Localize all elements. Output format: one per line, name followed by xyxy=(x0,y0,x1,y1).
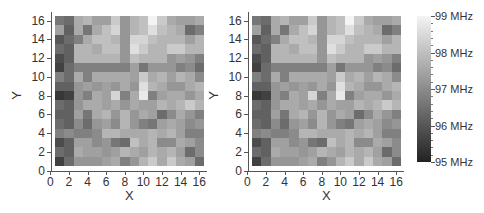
heatmap-cell xyxy=(289,54,298,63)
x-tick-label: 8 xyxy=(318,176,325,188)
heatmap-cell xyxy=(280,119,289,128)
heatmap-cell xyxy=(392,119,401,128)
heatmap-cell xyxy=(373,138,382,147)
heatmap-cell xyxy=(336,63,345,72)
heatmap-cell xyxy=(373,63,382,72)
heatmap-cell xyxy=(364,129,373,138)
heatmap-cell xyxy=(373,119,382,128)
colorbar-label: 97 MHz xyxy=(435,84,473,95)
heatmap-cell xyxy=(271,82,280,91)
heatmap-cell xyxy=(317,129,326,138)
heatmap-cell xyxy=(308,119,317,128)
heatmap-cell xyxy=(327,44,336,53)
heatmap-cell xyxy=(280,91,289,100)
heatmap-cell xyxy=(289,72,298,81)
heatmap-cell xyxy=(382,16,391,25)
y-tick-mark xyxy=(244,77,248,78)
heatmap-cell xyxy=(271,138,280,147)
heatmap-cell xyxy=(336,100,345,109)
heatmap-cell xyxy=(364,157,373,166)
heatmap-cell xyxy=(354,110,363,119)
heatmap-cell xyxy=(382,63,391,72)
colorbar-minor-tick xyxy=(431,111,433,112)
heatmap-cell xyxy=(382,35,391,44)
heatmap-cell xyxy=(336,157,345,166)
heatmap-cell xyxy=(317,44,326,53)
heatmap-cell xyxy=(308,63,317,72)
heatmap-cell xyxy=(289,44,298,53)
heatmap-cell xyxy=(373,16,382,25)
colorbar-minor-tick xyxy=(431,155,433,156)
heatmap-cell xyxy=(289,63,298,72)
heatmap-cell xyxy=(299,91,308,100)
heatmap-cell xyxy=(261,35,270,44)
heatmap-cell xyxy=(345,147,354,156)
heatmap-cell xyxy=(308,25,317,34)
heatmap-cell xyxy=(252,91,261,100)
heatmap-cell xyxy=(261,147,270,156)
heatmap-cell xyxy=(289,157,298,166)
heatmap-cell xyxy=(354,157,363,166)
heatmap-cell xyxy=(382,147,391,156)
heatmap-cell xyxy=(327,110,336,119)
heatmap-cell xyxy=(252,35,261,44)
heatmap-cell xyxy=(252,16,261,25)
heatmap-cell xyxy=(392,91,401,100)
heatmap-cell xyxy=(336,110,345,119)
heatmap-cell xyxy=(261,119,270,128)
heatmap-cell xyxy=(317,35,326,44)
heatmap-cell xyxy=(261,72,270,81)
heatmap-cell xyxy=(317,138,326,147)
heatmap-cell xyxy=(382,82,391,91)
heatmap-cell xyxy=(299,63,308,72)
heatmap-cell xyxy=(271,119,280,128)
heatmap-cell xyxy=(252,82,261,91)
y-tick-mark xyxy=(244,133,248,134)
heatmap-cell xyxy=(364,16,373,25)
heatmap-cell xyxy=(280,138,289,147)
heatmap-cell xyxy=(289,119,298,128)
heatmap-cell xyxy=(327,35,336,44)
colorbar-minor-tick xyxy=(431,118,433,119)
heatmap-cell xyxy=(280,25,289,34)
heatmap-cell xyxy=(392,72,401,81)
y-tick-label: 6 xyxy=(235,108,242,120)
colorbar-minor-tick xyxy=(431,67,433,68)
x-tick-label: 2 xyxy=(263,176,270,188)
heatmap-cell xyxy=(345,91,354,100)
y-tick-label: 2 xyxy=(235,146,242,158)
colorbar-minor-tick xyxy=(431,31,433,32)
heatmap-cell xyxy=(336,147,345,156)
y-tick-label: 0 xyxy=(235,165,242,177)
colorbar-label: 98 MHz xyxy=(435,48,473,59)
heatmap-cell xyxy=(392,100,401,109)
heatmap-cell xyxy=(364,63,373,72)
x-tick-label: 4 xyxy=(281,176,288,188)
heatmap-cell xyxy=(345,157,354,166)
heatmap-cell xyxy=(252,25,261,34)
colorbar-label: 95 MHz xyxy=(435,157,473,168)
heatmap-cell xyxy=(373,44,382,53)
heatmap-cell xyxy=(373,82,382,91)
x-tick-label: 10 xyxy=(334,176,347,188)
heatmap-cell xyxy=(382,54,391,63)
heatmap-cell xyxy=(364,35,373,44)
y-tick-mark xyxy=(244,39,248,40)
heatmap-cell xyxy=(345,35,354,44)
y-tick-mark xyxy=(244,114,248,115)
heatmap-cell xyxy=(252,63,261,72)
heatmap-cell xyxy=(317,91,326,100)
y-tick-mark xyxy=(244,58,248,59)
heatmap-cell xyxy=(261,16,270,25)
heatmap-cell xyxy=(252,138,261,147)
heatmap-cell xyxy=(299,16,308,25)
heatmap-cell xyxy=(271,35,280,44)
heatmap-cell xyxy=(317,72,326,81)
heatmap-cell xyxy=(392,35,401,44)
heatmap-cell xyxy=(382,91,391,100)
heatmap-cell xyxy=(327,82,336,91)
heatmap-cell xyxy=(327,157,336,166)
heatmap-cell xyxy=(345,72,354,81)
y-tick-label: 12 xyxy=(228,52,241,64)
heatmap-cell xyxy=(299,54,308,63)
